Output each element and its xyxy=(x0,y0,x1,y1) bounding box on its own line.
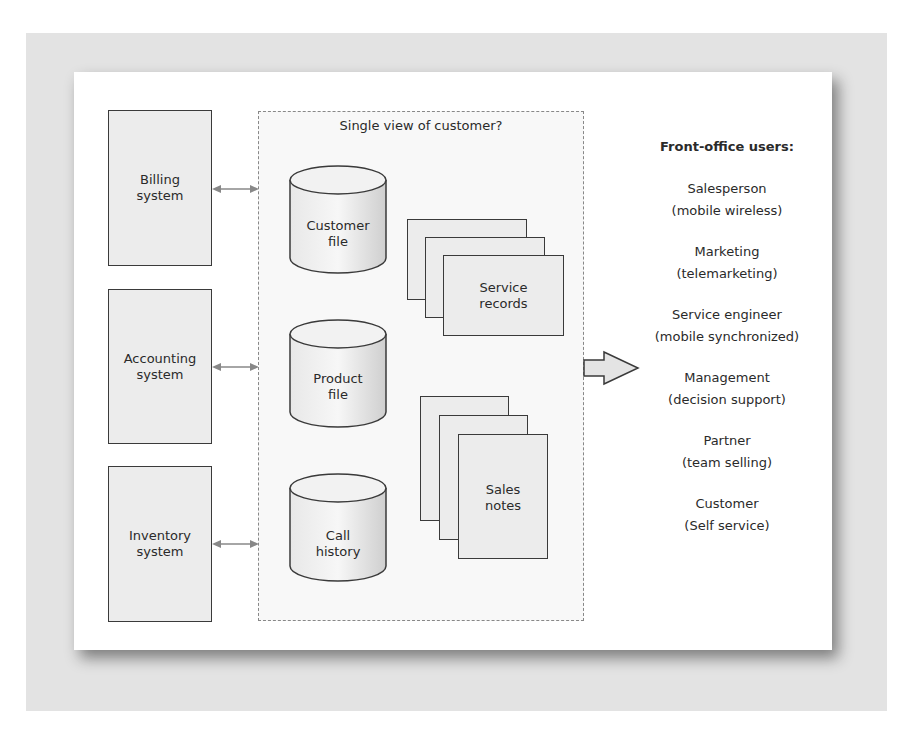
service-records-label: Servicerecords xyxy=(443,280,564,312)
system-label: Accounting xyxy=(124,351,197,367)
system-label: Billing xyxy=(137,172,184,188)
product-file-label: Productfile xyxy=(288,371,388,403)
customer-file-label: Customerfile xyxy=(288,218,388,250)
inventory-system-box: Inventorysystem xyxy=(108,466,212,622)
system-label: system xyxy=(129,544,191,560)
single-view-title: Single view of customer? xyxy=(258,118,584,133)
bidirectional-arrow-icon xyxy=(212,537,260,551)
bidirectional-arrow-icon xyxy=(212,182,260,196)
bidirectional-arrow-icon xyxy=(212,360,260,374)
billing-system-box: Billingsystem xyxy=(108,110,212,266)
front-office-users-list: Front-office users: Salesperson(mobile w… xyxy=(640,136,814,556)
user-item: Management(decision support) xyxy=(640,367,814,411)
system-label: Inventory xyxy=(129,528,191,544)
accounting-system-box: Accountingsystem xyxy=(108,289,212,444)
system-label: system xyxy=(124,367,197,383)
system-label: system xyxy=(137,188,184,204)
user-item: Service engineer(mobile synchronized) xyxy=(640,304,814,348)
user-item: Partner(team selling) xyxy=(640,430,814,474)
outbound-arrow-icon xyxy=(582,350,642,386)
call-history-label: Callhistory xyxy=(288,528,388,560)
user-item: Salesperson(mobile wireless) xyxy=(640,178,814,222)
user-item: Customer(Self service) xyxy=(640,493,814,537)
front-office-header: Front-office users: xyxy=(640,136,814,158)
sales-notes-label: Salesnotes xyxy=(458,482,548,514)
user-item: Marketing(telemarketing) xyxy=(640,241,814,285)
